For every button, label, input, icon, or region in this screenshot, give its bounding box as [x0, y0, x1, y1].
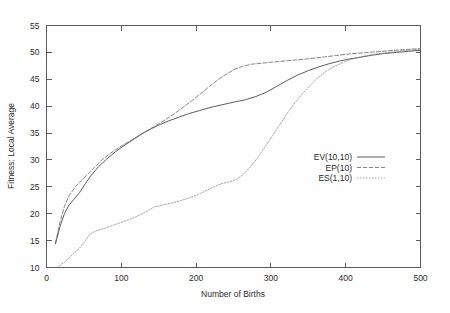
x-tick-label: 300 — [264, 273, 278, 283]
y-tick-label: 45 — [30, 74, 40, 84]
y-tick-label: 35 — [30, 128, 40, 138]
legend-label-ev1010: EV(10,10) — [314, 152, 352, 162]
y-tick-label: 55 — [30, 21, 40, 31]
chart-page: 0100200300400500 10152025303540455055 EV… — [0, 0, 450, 313]
y-tick-label: 40 — [30, 101, 40, 111]
y-tick-label: 50 — [30, 47, 40, 57]
x-tick-label: 200 — [189, 273, 203, 283]
x-tick-label: 500 — [413, 273, 427, 283]
y-tick-label: 15 — [30, 236, 40, 246]
x-tick-label: 100 — [114, 273, 128, 283]
y-axis-title: Fitness: Local Average — [6, 103, 16, 189]
x-axis-title: Number of Births — [201, 289, 265, 299]
y-tick-label: 25 — [30, 182, 40, 192]
x-tick-label: 0 — [44, 273, 49, 283]
chart-background — [0, 0, 450, 313]
x-tick-label: 400 — [339, 273, 353, 283]
y-tick-label: 20 — [30, 209, 40, 219]
legend-label-ep10: EP(10) — [326, 163, 353, 173]
y-tick-label: 30 — [30, 155, 40, 165]
legend-label-es110: ES(1,10) — [318, 173, 352, 183]
line-chart: 0100200300400500 10152025303540455055 EV… — [0, 0, 450, 313]
y-tick-label: 10 — [30, 263, 40, 273]
